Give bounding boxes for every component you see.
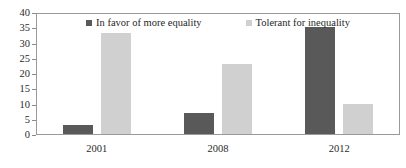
- x-tick-cell: 2001: [36, 138, 157, 160]
- plot-inner: In favor of more equality Tolerant for i…: [37, 14, 399, 134]
- bar-group: [278, 14, 399, 134]
- bar-group: [158, 14, 279, 134]
- y-tick-label: 10: [20, 100, 31, 110]
- y-tick-mark: [32, 135, 36, 136]
- y-axis: 4035302520151050: [0, 8, 36, 140]
- x-axis: 2001 2008 2012: [36, 138, 400, 160]
- bar-group: [37, 14, 158, 134]
- y-tick-label: 5: [25, 115, 30, 125]
- x-tick-cell: 2008: [157, 138, 278, 160]
- x-tick-label: 2001: [86, 143, 107, 154]
- x-tick-label: 2008: [207, 143, 228, 154]
- y-tick-label: 25: [20, 54, 31, 64]
- bar-series-1: [184, 113, 214, 134]
- y-tick-label: 35: [20, 23, 31, 33]
- y-tick-label: 40: [20, 8, 31, 18]
- bar-series-2: [222, 64, 252, 134]
- bar-series-2: [101, 33, 131, 134]
- y-tick-label: 0: [25, 130, 30, 140]
- plot-area: In favor of more equality Tolerant for i…: [36, 13, 400, 135]
- bar-groups: [37, 14, 399, 134]
- bar-series-1: [305, 27, 335, 134]
- x-tick-label: 2012: [329, 143, 350, 154]
- bar-series-1: [63, 125, 93, 134]
- bar-chart: 4035302520151050: [0, 0, 406, 168]
- y-tick-label: 20: [20, 69, 31, 79]
- y-tick-label: 30: [20, 39, 31, 49]
- x-tick-cell: 2012: [279, 138, 400, 160]
- bar-series-2: [343, 104, 373, 135]
- y-tick-label: 15: [20, 84, 31, 94]
